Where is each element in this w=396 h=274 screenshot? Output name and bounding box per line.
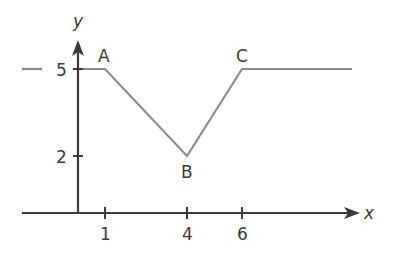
x-axis-label: x (363, 203, 375, 223)
y-tick-label-2: 2 (56, 147, 67, 167)
graph-line (22, 69, 352, 156)
y-tick-label-5: 5 (56, 60, 67, 80)
x-axis (22, 207, 360, 219)
x-tick-label-6: 6 (237, 224, 248, 244)
point-label-a: A (98, 46, 110, 66)
point-label-c: C (236, 46, 248, 66)
point-label-b: B (181, 162, 193, 182)
y-axis-label: y (72, 11, 84, 31)
x-tick-label-1: 1 (100, 224, 111, 244)
x-tick-label-4: 4 (182, 224, 193, 244)
y-axis (72, 40, 84, 213)
graph-figure: y x 5 2 1 4 6 A B C (0, 0, 396, 274)
